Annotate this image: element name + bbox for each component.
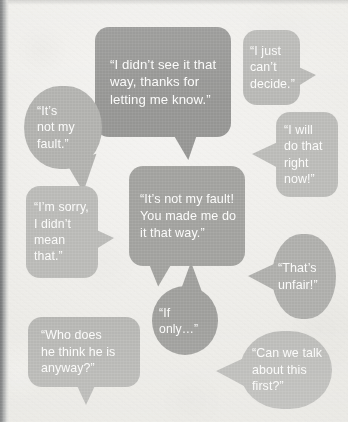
bubble-text: “Can we talk about this first?” (240, 345, 332, 395)
bubble-can-we-talk-about-this-first: “Can we talk about this first?” (240, 331, 332, 409)
bubble-tail-bottom (73, 377, 99, 405)
bubble-didnt-see-it-that-way: “I didn’t see it that way, thanks for le… (95, 27, 231, 137)
bubble-if-only: “If only…” (152, 286, 218, 355)
bubble-text: “I didn’t see it that way, thanks for le… (95, 56, 231, 109)
bubble-im-sorry-didnt-mean-that: “I’m sorry, I didn’t mean that.” (26, 186, 98, 278)
bubble-i-will-do-that-right-now: “I will do that right now!” (276, 112, 338, 197)
bubble-text: “Who does he think he is anyway?” (28, 327, 140, 377)
bubble-tail-bottom-left (138, 251, 175, 288)
bubble-text: “I’m sorry, I didn’t mean that.” (26, 199, 98, 265)
illustration-canvas: “I didn’t see it that way, thanks for le… (0, 0, 348, 422)
bubble-text: “I will do that right now!” (276, 122, 338, 188)
bubble-not-my-fault-you-made-me: “It’s not my fault! You made me do it th… (129, 166, 245, 266)
bubble-who-does-he-think-he-is: “Who does he think he is anyway?” (28, 317, 140, 387)
bubble-text: “If only…” (152, 305, 218, 337)
bubble-not-my-fault-short: “It’s not my fault.” (24, 86, 102, 169)
bubble-text: “It’s not my fault! You made me do it th… (129, 191, 245, 242)
bubble-cant-decide: “I just can’t decide.” (243, 30, 300, 105)
bubble-text: “It’s not my fault.” (24, 103, 102, 153)
bubble-text: “I just can’t decide.” (243, 43, 301, 93)
bubble-tail-top (180, 262, 202, 292)
bubble-thats-unfair: “That’s unfair!” (272, 234, 336, 319)
bubble-text: “That’s unfair!” (272, 260, 336, 293)
